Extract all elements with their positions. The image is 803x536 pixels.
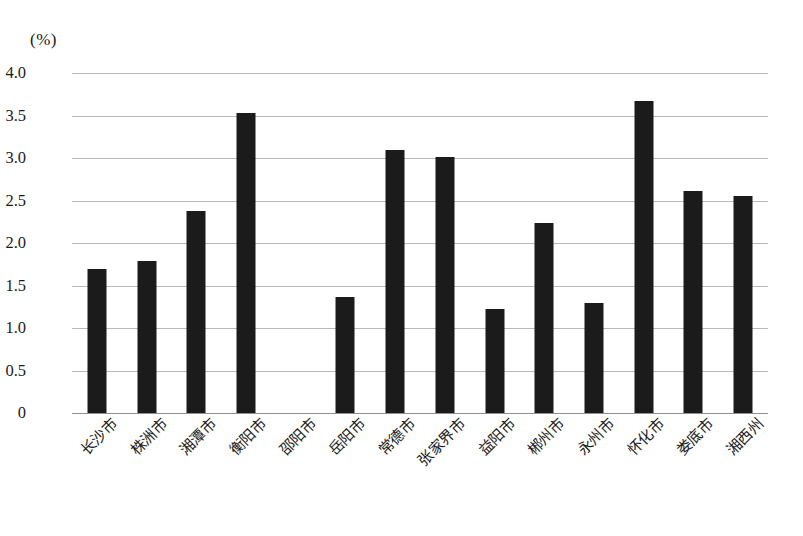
y-tick-label: 0.5 (0, 362, 26, 379)
x-tick-label: 益阳市 (476, 416, 519, 459)
x-tick-label: 怀化市 (625, 416, 668, 459)
bar (187, 211, 206, 413)
bar-slot (122, 73, 172, 413)
plot-area: 4.03.53.02.52.01.51.00.50 (72, 73, 768, 413)
bar (584, 303, 603, 414)
y-tick-label: 0 (0, 405, 26, 422)
bar-slot (669, 73, 719, 413)
bar-slot (470, 73, 520, 413)
bar-slot (321, 73, 371, 413)
y-tick-label: 3.5 (0, 107, 26, 124)
y-tick-label: 3.0 (0, 150, 26, 167)
gridline-0 (72, 413, 768, 414)
x-tick-label: 娄底市 (675, 416, 718, 459)
y-tick-label: 1.0 (0, 320, 26, 337)
x-tick-label: 永州市 (575, 416, 618, 459)
y-tick-label: 2.0 (0, 235, 26, 252)
y-tick-label: 1.5 (0, 277, 26, 294)
bar-slot (420, 73, 470, 413)
bar (236, 113, 255, 413)
bar (336, 297, 355, 413)
x-tick-label: 湘潭市 (177, 416, 220, 459)
bar (634, 101, 653, 413)
bar-slot (519, 73, 569, 413)
bar (386, 150, 405, 413)
bar (435, 157, 454, 413)
bar (137, 261, 156, 413)
x-tick-label: 张家界市 (415, 416, 469, 470)
y-axis-unit-label: (%) (30, 30, 57, 50)
x-tick-label: 郴州市 (525, 416, 568, 459)
bar-slot (619, 73, 669, 413)
bar (535, 223, 554, 413)
bar-chart: (%) 4.03.53.02.52.01.51.00.50 长沙市株洲市湘潭市衡… (0, 0, 803, 536)
bars-layer (72, 73, 768, 413)
y-tick-label: 4.0 (0, 65, 26, 82)
x-tick-label: 邵阳市 (277, 416, 320, 459)
bar-slot (271, 73, 321, 413)
bar-slot (171, 73, 221, 413)
bar (87, 269, 106, 414)
bar-slot (569, 73, 619, 413)
x-tick-label: 株洲市 (128, 416, 171, 459)
bar-slot (72, 73, 122, 413)
y-tick-label: 2.5 (0, 192, 26, 209)
bar (734, 196, 753, 413)
x-tick-label: 常德市 (376, 416, 419, 459)
x-tick-label: 湘西州 (724, 416, 767, 459)
x-tick-label: 岳阳市 (327, 416, 370, 459)
x-axis-labels: 长沙市株洲市湘潭市衡阳市邵阳市岳阳市常德市张家界市益阳市郴州市永州市怀化市娄底市… (72, 416, 768, 534)
bar-slot (718, 73, 768, 413)
bar (485, 309, 504, 413)
bar-slot (221, 73, 271, 413)
x-tick-label: 长沙市 (78, 416, 121, 459)
bar (684, 191, 703, 413)
bar-slot (370, 73, 420, 413)
x-tick-label: 衡阳市 (227, 416, 270, 459)
